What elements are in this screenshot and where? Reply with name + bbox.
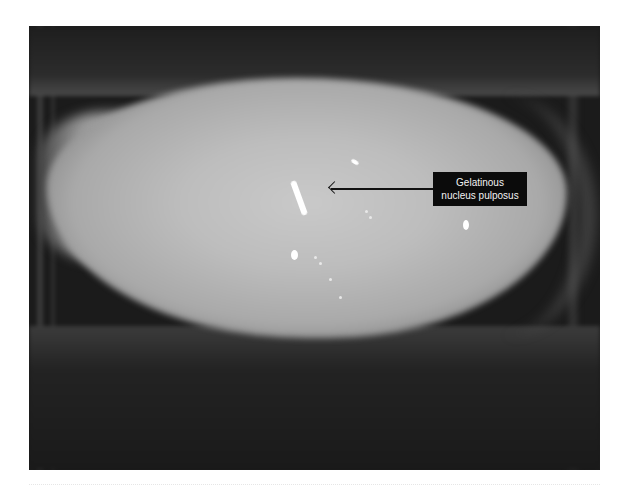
speck [365,210,368,213]
annulus-fibrosus-ring [409,96,597,336]
highlight [463,220,469,230]
divider [29,484,600,485]
disc-photograph: Gelatinous nucleus pulposus [29,26,600,470]
speck [369,216,372,219]
annotation-line-1: Gelatinous [456,176,504,189]
annotation-label: Gelatinous nucleus pulposus [433,172,527,206]
pointer-arrow [331,188,433,190]
highlight [291,250,298,260]
speck [329,278,332,281]
lower-vertebra [29,326,600,470]
speck [339,296,342,299]
annotation-line-2: nucleus pulposus [441,189,518,202]
speck [319,262,322,265]
speck [314,256,317,259]
